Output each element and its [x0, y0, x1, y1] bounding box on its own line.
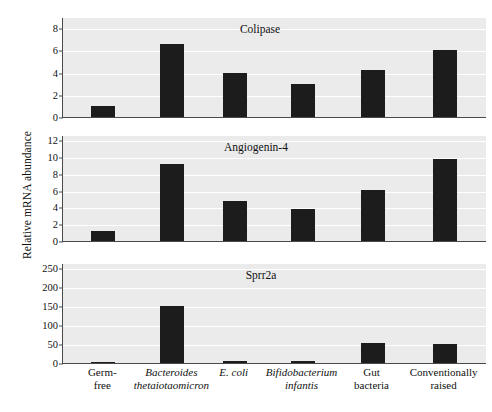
bar — [291, 209, 315, 241]
y-axis-tick-mark — [59, 225, 63, 226]
bar — [291, 361, 315, 363]
chart-panel-colipase: 02468 Colipase — [62, 18, 486, 118]
y-axis-tick-mark — [59, 268, 63, 269]
x-axis-label-line: thetaiotaomicron — [119, 379, 223, 392]
y-axis-tick-mark — [59, 95, 63, 96]
gridline — [63, 74, 486, 75]
y-axis-tick-mark — [59, 325, 63, 326]
y-axis-label: Relative mRNA abundance — [21, 131, 33, 259]
gridline — [63, 175, 486, 176]
bar — [223, 201, 247, 241]
y-axis-label-container: Relative mRNA abundance — [18, 120, 36, 270]
y-axis-tick-mark — [59, 141, 63, 142]
bar — [160, 164, 184, 241]
gridline — [63, 158, 486, 159]
y-axis-tick-mark — [59, 242, 63, 243]
y-axis-tick-mark — [59, 157, 63, 158]
y-axis-tick-mark — [59, 306, 63, 307]
bar — [160, 44, 184, 117]
bar — [433, 344, 457, 363]
bar — [291, 84, 315, 117]
x-axis-label-line: raised — [392, 379, 492, 392]
gridline — [63, 96, 486, 97]
bar — [223, 361, 247, 363]
bar — [91, 231, 115, 241]
bar — [433, 50, 457, 117]
gridline — [63, 141, 486, 142]
x-axis-category-label: Conventionallyraised — [392, 366, 492, 393]
bar — [91, 362, 115, 364]
y-axis-tick-mark — [59, 191, 63, 192]
plot-area: 050100150200250 — [62, 264, 486, 364]
y-axis-tick-mark — [59, 287, 63, 288]
bar — [160, 306, 184, 363]
x-axis-category-labels: Germ-freeBacteroidesthetaiotaomicronE. c… — [62, 366, 486, 410]
bar — [223, 73, 247, 117]
y-axis-tick-mark — [59, 73, 63, 74]
gridline — [63, 288, 486, 289]
gridline — [63, 51, 486, 52]
chart-panel-sprr2a: 050100150200250 Sprr2a — [62, 264, 486, 364]
gridline — [63, 225, 486, 226]
gridline — [63, 326, 486, 327]
y-axis-tick-mark — [59, 364, 63, 365]
figure-root: Relative mRNA abundance 02468 Colipase 0… — [0, 0, 492, 412]
y-axis-tick-mark — [59, 174, 63, 175]
bar — [91, 106, 115, 117]
y-axis-tick-mark — [59, 118, 63, 119]
bar — [433, 159, 457, 241]
gridline — [63, 269, 486, 270]
bar — [361, 190, 385, 241]
plot-area: 02468 — [62, 18, 486, 118]
bar — [361, 70, 385, 117]
gridline — [63, 307, 486, 308]
chart-panel-angiogenin-4: 024681012 Angiogenin-4 — [62, 136, 486, 242]
gridline — [63, 345, 486, 346]
y-axis-tick-mark — [59, 208, 63, 209]
gridline — [63, 192, 486, 193]
bar — [361, 343, 385, 363]
x-axis-label-line: Conventionally — [392, 366, 492, 379]
y-axis-tick-mark — [59, 344, 63, 345]
y-axis-tick-mark — [59, 29, 63, 30]
y-axis-tick-mark — [59, 51, 63, 52]
gridline — [63, 208, 486, 209]
gridline — [63, 29, 486, 30]
plot-area: 024681012 — [62, 136, 486, 242]
